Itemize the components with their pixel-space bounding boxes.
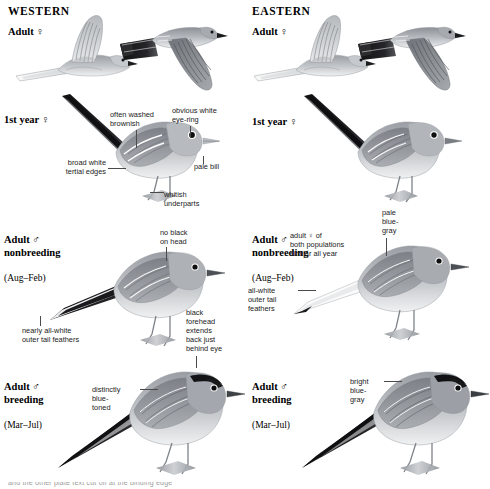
callout-adult-female-both-populations: adult ♀ of both populations similar all … xyxy=(290,231,382,258)
leader-broad-white-tertial-edges xyxy=(108,168,126,169)
callout-broad-white-tertial-edges: broad white tertial edges xyxy=(36,158,106,176)
callout-distinctly-blue-toned: distinctly blue- toned xyxy=(92,385,140,412)
callout-no-black-on-head: no black on head xyxy=(160,228,212,246)
leader-no-black-on-head xyxy=(166,247,167,261)
callout-pale-blue-gray: pale blue- gray xyxy=(382,208,418,235)
leader-bright-blue-gray xyxy=(384,381,402,382)
leader-all-white-outer-tail xyxy=(298,290,316,291)
age-label-text: Adult ♂ breeding xyxy=(252,381,291,404)
callout-pale-bill: pale bill xyxy=(194,162,236,171)
figure-eastern-adult-male-breeding xyxy=(300,348,490,482)
figure-western-adult-male-breeding xyxy=(56,348,246,482)
leader-often-washed-brownish xyxy=(136,130,137,148)
age-label-text: Adult ♂ breeding xyxy=(4,381,43,404)
age-label-eastern-adult-male-breeding: Adult ♂ breeding (Mar–Jul) xyxy=(252,369,291,431)
bottom-cropped-text: and the other plate text cut off at the … xyxy=(0,482,476,489)
leader-pale-bill xyxy=(203,156,204,164)
callout-all-white-outer-tail-feathers: all-white outer tail feathers xyxy=(248,286,300,313)
age-label-eastern-first-year: 1st year ♀ xyxy=(252,116,298,128)
callout-often-washed-brownish: often washed brownish xyxy=(110,110,172,128)
age-label-western-adult-male-breeding: Adult ♂ breeding (Mar–Jul) xyxy=(4,369,43,431)
leader-whitish-underparts xyxy=(150,192,164,193)
season-text: (Mar–Jul) xyxy=(252,420,290,430)
season-text: (Aug–Feb) xyxy=(4,273,46,283)
figure-western-adult-female-flight-upperside xyxy=(118,10,234,96)
callout-black-forehead-extends: black forehead extends back just behind … xyxy=(186,308,242,353)
leader-pale-blue-gray xyxy=(386,238,387,256)
figure-eastern-first-year-female xyxy=(300,92,470,204)
season-text: (Aug–Feb) xyxy=(252,273,294,283)
leader-distinctly-blue-toned xyxy=(140,389,158,390)
leader-obvious-white-eye-ring xyxy=(190,126,191,138)
figure-eastern-adult-female-flight-upperside xyxy=(356,10,472,96)
callout-whitish-underparts: whitish underparts xyxy=(164,190,224,208)
callout-obvious-white-eye-ring: obvious white eye-ring xyxy=(172,106,236,124)
season-text: (Mar–Jul) xyxy=(4,420,42,430)
age-label-western-first-year: 1st year ♀ xyxy=(4,114,50,126)
leader-nearly-all-white-outer-tail xyxy=(40,316,41,326)
callout-nearly-all-white-outer-tail-feathers: nearly all-white outer tail feathers xyxy=(22,326,114,344)
callout-bright-blue-gray: bright blue- gray xyxy=(350,377,388,404)
